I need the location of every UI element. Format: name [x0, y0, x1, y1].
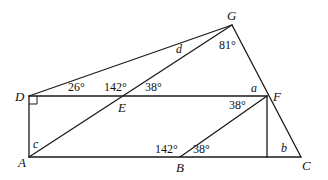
segment-DG: [29, 25, 232, 96]
segment-AG: [29, 25, 232, 157]
angle-label-B-38: 38°: [193, 142, 210, 156]
point-label-D: D: [14, 89, 25, 104]
point-label-C: C: [302, 158, 311, 173]
angle-label-D-26: 26°: [68, 80, 85, 94]
angle-label-E-38: 38°: [145, 80, 162, 94]
variable-label-a: a: [251, 81, 257, 95]
geometry-diagram: G D E F A B C 26° 142° 38° 81° 38° 142° …: [0, 0, 328, 180]
point-label-G: G: [227, 8, 237, 23]
point-label-B: B: [176, 160, 184, 175]
angle-label-B-142: 142°: [155, 142, 178, 156]
variable-label-c: c: [33, 137, 39, 151]
variable-label-b: b: [281, 141, 287, 155]
point-label-E: E: [117, 100, 126, 115]
right-angle-marker: [29, 96, 37, 104]
angle-label-G-81: 81°: [219, 38, 236, 52]
angle-label-E-142: 142°: [104, 80, 127, 94]
point-label-A: A: [17, 155, 26, 170]
variable-label-d: d: [176, 42, 183, 56]
angle-label-F-38: 38°: [229, 98, 246, 112]
point-label-F: F: [272, 89, 282, 104]
